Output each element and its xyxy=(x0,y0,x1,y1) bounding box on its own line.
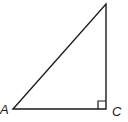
right-angle-marker xyxy=(98,101,106,109)
triangle-diagram: A C xyxy=(0,0,128,122)
vertex-label-c: C xyxy=(112,104,122,119)
vertex-label-a: A xyxy=(0,102,9,117)
triangle-shape xyxy=(13,4,106,109)
